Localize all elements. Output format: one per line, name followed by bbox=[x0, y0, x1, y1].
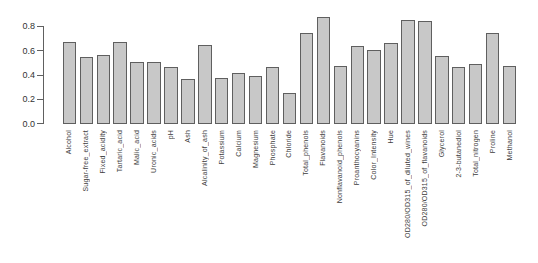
bar bbox=[418, 21, 431, 124]
x-tick-label: Glycerol bbox=[437, 130, 447, 157]
bar bbox=[80, 57, 93, 124]
x-tick-label: Methanol bbox=[505, 130, 515, 160]
y-tick-mark bbox=[37, 26, 43, 27]
x-tick-label: Phosphate bbox=[268, 130, 278, 165]
bar bbox=[164, 67, 177, 124]
bar bbox=[469, 64, 482, 125]
y-axis-line bbox=[43, 26, 44, 125]
bar bbox=[334, 66, 347, 124]
bar bbox=[130, 62, 143, 124]
bar bbox=[113, 42, 126, 125]
x-tick-label: Proline bbox=[488, 130, 498, 153]
x-tick-label: Alcohol bbox=[64, 130, 74, 154]
bar bbox=[97, 55, 110, 124]
bar bbox=[367, 50, 380, 124]
bar bbox=[486, 33, 499, 124]
x-tick-label: Nonflavanoid_phenols bbox=[335, 130, 345, 203]
bar bbox=[317, 17, 330, 124]
bar-chart-figure: 0.00.20.40.60.8 AlcoholSugar-free_extrac… bbox=[0, 0, 538, 263]
bar bbox=[266, 67, 279, 124]
bar bbox=[198, 45, 211, 124]
y-tick-mark bbox=[37, 99, 43, 100]
bar bbox=[232, 73, 245, 124]
bar bbox=[181, 79, 194, 124]
x-tick-label: OD280/OD315_of_diluted_wines bbox=[403, 130, 413, 238]
x-tick-label: Malic_acid bbox=[132, 130, 142, 165]
bar bbox=[283, 93, 296, 125]
bar bbox=[300, 33, 313, 124]
x-tick-label: Uronic_acids bbox=[149, 130, 159, 173]
bar bbox=[147, 62, 160, 124]
bar bbox=[384, 43, 397, 125]
x-tick-label: Hue bbox=[386, 130, 396, 143]
bar bbox=[63, 42, 76, 125]
y-tick-mark bbox=[37, 75, 43, 76]
y-tick-label: 0.0 bbox=[5, 119, 35, 129]
x-tick-label: 2-3-butanediol bbox=[454, 130, 464, 178]
x-tick-label: Potassium bbox=[217, 130, 227, 164]
x-tick-label: Fixed_acidity bbox=[98, 130, 108, 173]
x-tick-label: OD280/OD315_of_flavanoids bbox=[420, 130, 430, 226]
y-tick-label: 0.2 bbox=[5, 94, 35, 104]
x-tick-label: Chloride bbox=[284, 130, 294, 158]
x-tick-label: Calcium bbox=[234, 130, 244, 157]
x-tick-label: Sugar-free_extract bbox=[81, 130, 91, 192]
x-tick-label: Total_phenols bbox=[301, 130, 311, 176]
x-tick-label: Alcalinity_of_ash bbox=[200, 130, 210, 186]
x-tick-label: Color_Intensity bbox=[369, 130, 379, 180]
x-tick-label: Flavanoids bbox=[318, 130, 328, 166]
x-tick-label: Magnesium bbox=[251, 130, 261, 168]
y-tick-label: 0.6 bbox=[5, 46, 35, 56]
x-tick-label: Tartaric_acid bbox=[115, 130, 125, 172]
bar bbox=[351, 46, 364, 124]
bar bbox=[249, 76, 262, 125]
y-tick-mark bbox=[37, 50, 43, 51]
y-tick-mark bbox=[37, 123, 43, 124]
bar bbox=[435, 56, 448, 124]
x-tick-label: pH bbox=[166, 130, 176, 139]
x-tick-label: Total_nitrogen bbox=[471, 130, 481, 177]
bar bbox=[503, 66, 516, 124]
y-tick-label: 0.4 bbox=[5, 70, 35, 80]
x-tick-label: Proanthocyanins bbox=[352, 130, 362, 185]
bar bbox=[215, 78, 228, 124]
x-tick-label: Ash bbox=[183, 130, 193, 143]
y-tick-label: 0.8 bbox=[5, 21, 35, 31]
bar bbox=[452, 67, 465, 124]
bar bbox=[401, 20, 414, 125]
